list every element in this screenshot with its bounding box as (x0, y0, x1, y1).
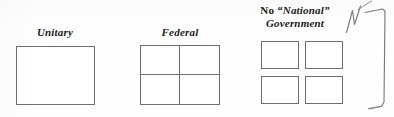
diagram-confederal-label: No “National”Government (254, 4, 336, 29)
diagram-federal-label: Federal (140, 26, 220, 39)
check-mark-icon (344, 0, 374, 38)
confederal-box-top-right (305, 41, 343, 69)
federal-box (140, 45, 220, 105)
confederal-label-national: “National” (277, 4, 330, 16)
unitary-box (16, 46, 95, 105)
figure-canvas: Unitary Federal No “National”Government (0, 0, 394, 117)
federal-vertical-divider (179, 46, 180, 104)
confederal-label-no: No (260, 4, 277, 16)
confederal-box-top-left (261, 41, 299, 69)
federal-horizontal-divider (141, 74, 219, 75)
diagram-unitary-label: Unitary (15, 26, 95, 39)
confederal-label-government: Government (266, 17, 324, 29)
right-bracket-icon (362, 6, 394, 114)
confederal-box-bottom-left (261, 76, 299, 104)
confederal-box-bottom-right (305, 76, 343, 104)
